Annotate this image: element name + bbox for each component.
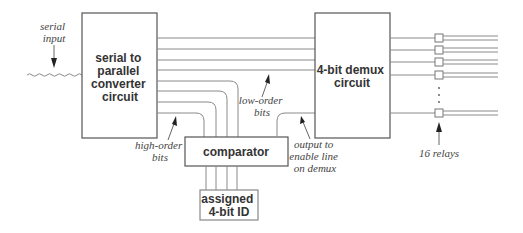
high-order-bit-wires — [157, 81, 238, 137]
relay-4 — [435, 71, 443, 79]
assigned-id-label: assigned 4-bit ID — [201, 192, 256, 219]
output-enable-arrow-icon — [300, 116, 310, 139]
high-order-bits-label: high-order bits — [135, 139, 185, 163]
relay-2 — [435, 46, 443, 54]
relays-arrow-icon — [436, 122, 442, 145]
low-order-bits-label: low-order bits — [239, 94, 285, 118]
relay-16 — [435, 109, 443, 117]
ellipsis-dots — [438, 87, 440, 103]
high-order-arrow-icon — [168, 116, 177, 140]
id-bit-wires — [206, 166, 237, 190]
relay-wires — [390, 38, 435, 113]
serial-input-arrow-icon — [51, 45, 57, 68]
serial-input-label: serial input — [40, 20, 68, 44]
relays-label: 16 relays — [419, 147, 459, 159]
output-enable-label: output to enable line on demux — [289, 138, 340, 174]
serial-demux-diagram: serial input serial to parallel converte… — [0, 0, 523, 233]
serial-input-wire — [27, 74, 82, 77]
comparator-label: comparator — [203, 145, 269, 159]
relay-output-wires — [443, 36, 498, 115]
relay-3 — [435, 58, 443, 66]
relay-1 — [435, 34, 443, 42]
relays — [435, 34, 443, 117]
enable-wire — [277, 113, 315, 137]
low-order-bit-wires — [157, 38, 315, 70]
